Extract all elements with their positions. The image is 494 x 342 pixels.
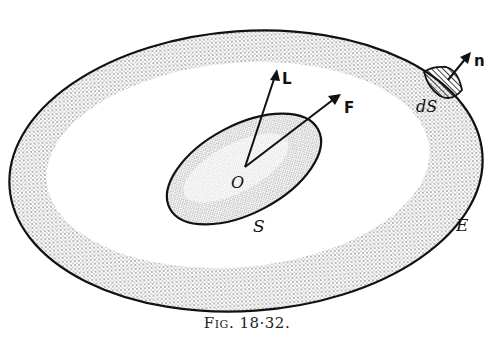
caption-prefix: Fig. (204, 314, 234, 332)
label-n: n (474, 52, 485, 70)
caption-number: 18·32. (239, 314, 290, 332)
figure-caption: Fig. 18·32. (0, 314, 494, 332)
label-l: L (282, 70, 292, 88)
label-origin-o: O (231, 173, 244, 192)
label-f: F (344, 99, 354, 117)
normal-n-arrow (448, 52, 471, 80)
label-ds: dS (416, 97, 437, 116)
figure-diagram: L F n dS O S E (0, 0, 494, 342)
label-s: S (253, 216, 265, 236)
label-e: E (455, 215, 469, 235)
